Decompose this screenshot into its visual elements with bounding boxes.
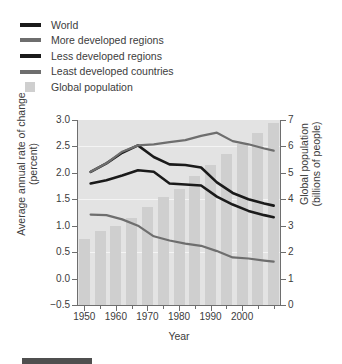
x-axis-minor-tick bbox=[132, 306, 133, 309]
y-axis-left-tick bbox=[72, 199, 77, 200]
y-axis-left-tick bbox=[72, 146, 77, 147]
y-axis-right-tick bbox=[281, 120, 286, 121]
y-axis-right-tick-label: 0 bbox=[288, 300, 308, 310]
y-axis-right-title-line: (billions of people) bbox=[310, 72, 322, 257]
y-axis-right-tick bbox=[281, 199, 286, 200]
y-axis-left-tick bbox=[72, 305, 77, 306]
y-axis-left-tick-label: −0.5 bbox=[30, 300, 70, 310]
y-axis-right-tick-label: 1 bbox=[288, 274, 308, 284]
line-series bbox=[91, 215, 274, 262]
y-axis-left-tick bbox=[72, 252, 77, 253]
y-axis-left-title-line: (percent) bbox=[27, 72, 39, 257]
y-axis-left-title-line: Average annual rate of change bbox=[15, 72, 27, 257]
y-axis-right-tick bbox=[281, 146, 286, 147]
y-axis-left-title: Average annual rate of change(percent) bbox=[15, 72, 39, 257]
line-series bbox=[91, 170, 274, 217]
x-axis-minor-tick bbox=[258, 306, 259, 309]
y-axis-left-tick-label: 0.0 bbox=[30, 274, 70, 284]
y-axis-right-tick bbox=[281, 279, 286, 280]
y-axis-left-tick bbox=[72, 279, 77, 280]
x-axis-title: Year bbox=[78, 330, 280, 342]
x-axis-minor-tick bbox=[226, 306, 227, 309]
y-axis-right-tick bbox=[281, 252, 286, 253]
caption-rule bbox=[22, 358, 92, 364]
y-axis-left-tick bbox=[72, 120, 77, 121]
y-axis-right-tick bbox=[281, 226, 286, 227]
y-axis-right-title-line: Global population bbox=[298, 72, 310, 257]
y-axis-right-title: Global population(billions of people) bbox=[298, 72, 322, 257]
x-axis-minor-tick bbox=[163, 306, 164, 309]
y-axis-left-tick bbox=[72, 173, 77, 174]
x-axis-minor-tick bbox=[100, 306, 101, 309]
y-axis-left-line bbox=[77, 120, 78, 306]
line-series-group bbox=[78, 120, 280, 305]
plot-area bbox=[78, 120, 280, 305]
x-axis-tick-label: 2000 bbox=[222, 312, 262, 322]
y-axis-left-tick bbox=[72, 226, 77, 227]
x-axis-minor-tick bbox=[274, 306, 275, 309]
y-axis-right-tick bbox=[281, 173, 286, 174]
x-axis-minor-tick bbox=[195, 306, 196, 309]
y-axis-right-tick bbox=[281, 305, 286, 306]
chart-container: 3.02.52.01.51.00.50.0−0.5 76543210 19501… bbox=[0, 0, 342, 364]
